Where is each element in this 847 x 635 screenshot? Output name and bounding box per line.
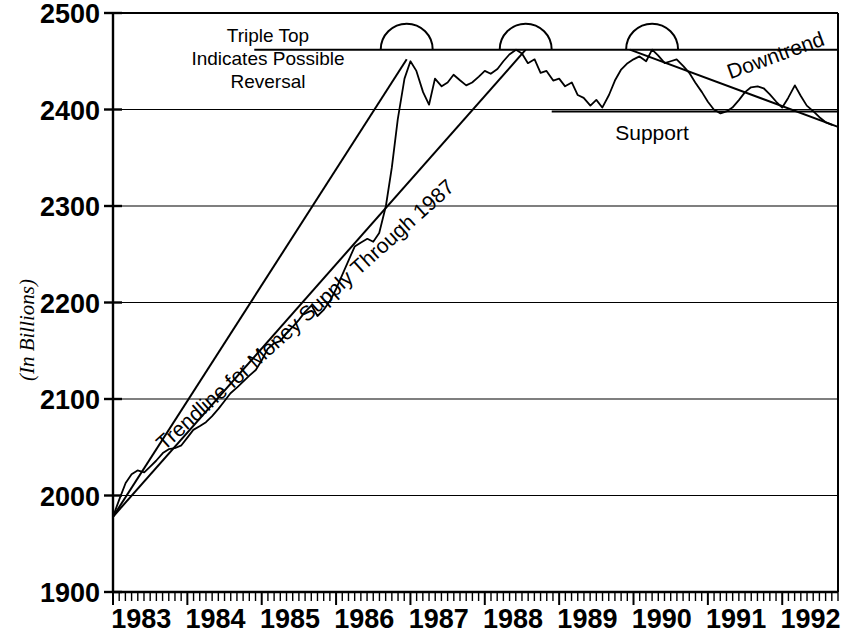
y-tick-label-1900: 1900 — [40, 578, 100, 608]
chart-container: 2500240023002200210020001900 19831984198… — [0, 0, 847, 635]
y-tick-label-2300: 2300 — [40, 192, 100, 222]
y-tick-label-2000: 2000 — [40, 482, 100, 512]
x-tick-label-1989: 1989 — [557, 604, 617, 634]
x-tick-label-1986: 1986 — [334, 604, 394, 634]
x-tick-label-1992: 1992 — [780, 604, 840, 634]
y-tick-label-2200: 2200 — [40, 289, 100, 319]
x-tick-label-1984: 1984 — [186, 604, 246, 634]
x-tick-label-1988: 1988 — [483, 604, 543, 634]
y-tick-label-2400: 2400 — [40, 96, 100, 126]
x-tick-label-1985: 1985 — [260, 604, 320, 634]
annotation-support-label: Support — [615, 121, 689, 144]
money-supply-chart: 2500240023002200210020001900 19831984198… — [0, 0, 847, 635]
y-tick-label-2500: 2500 — [40, 0, 100, 29]
x-tick-label-1987: 1987 — [409, 604, 469, 634]
x-tick-label-1990: 1990 — [632, 604, 692, 634]
triple-top-line-2: Indicates Possible — [191, 48, 344, 69]
x-tick-label-1983: 1983 — [111, 604, 171, 634]
chart-background — [0, 0, 847, 635]
y-axis-title: (In Billions) — [15, 279, 39, 381]
triple-top-line-1: Triple Top — [227, 25, 309, 46]
y-tick-label-2100: 2100 — [40, 385, 100, 415]
triple-top-line-3: Reversal — [231, 71, 306, 92]
x-tick-label-1991: 1991 — [706, 604, 766, 634]
